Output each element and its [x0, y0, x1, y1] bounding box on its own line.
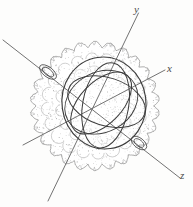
inner-stipple-dot	[126, 96, 127, 97]
inner-stipple-dot	[111, 84, 112, 85]
inner-stipple-dot	[108, 104, 109, 105]
inner-stipple-dot	[120, 109, 121, 110]
inner-stipple-dot	[67, 108, 68, 109]
stipple-dot	[113, 56, 114, 57]
stipple-dot	[45, 89, 46, 90]
stipple-dot	[153, 102, 154, 103]
inner-stipple-dot	[101, 73, 102, 74]
inner-stipple-dot	[109, 87, 110, 88]
stipple-dot	[101, 162, 102, 163]
stipple-dot	[97, 170, 98, 171]
stipple-dot	[44, 128, 45, 129]
inner-stipple-dot	[127, 77, 128, 78]
stipple-dot	[38, 88, 39, 89]
inner-stipple-dot	[120, 119, 121, 120]
inner-stipple-dot	[106, 134, 107, 135]
stipple-dot	[145, 130, 146, 131]
stipple-dot	[60, 78, 61, 79]
stipple-dot	[130, 60, 131, 61]
stipple-dot	[81, 143, 82, 144]
stipple-dot	[43, 143, 44, 144]
inner-stipple-dot	[89, 131, 90, 132]
inner-stipple-dot	[125, 115, 126, 116]
stipple-dot	[45, 92, 46, 93]
stipple-dot	[68, 50, 69, 51]
stipple-dot	[113, 150, 114, 151]
inner-stipple-dot	[87, 113, 88, 114]
stipple-dot	[56, 71, 57, 72]
stipple-dot	[57, 154, 58, 155]
stipple-dot	[62, 77, 63, 78]
inner-stipple-dot	[128, 134, 129, 135]
inner-stipple-dot	[90, 82, 91, 83]
stipple-dot	[111, 47, 112, 48]
inner-stipple-dot	[123, 96, 124, 97]
stipple-dot	[148, 124, 149, 125]
inner-stipple-dot	[94, 116, 95, 117]
inner-stipple-dot	[109, 95, 110, 96]
inner-stipple-dot	[81, 84, 82, 85]
inner-stipple-dot	[87, 131, 88, 132]
inner-stipple-dot	[87, 138, 88, 139]
stipple-dot	[55, 146, 56, 147]
inner-stipple-dot	[137, 113, 138, 114]
stipple-dot	[40, 123, 41, 124]
stipple-dot	[95, 161, 96, 162]
inner-stipple-dot	[73, 78, 74, 79]
stipple-dot	[64, 68, 65, 69]
inner-stipple-dot	[112, 100, 113, 101]
inner-stipple-dot	[132, 114, 133, 115]
inner-stipple-dot	[90, 69, 91, 70]
inner-stipple-dot	[90, 70, 91, 71]
stipple-dot	[70, 151, 71, 152]
stipple-dot	[157, 89, 158, 90]
stipple-dot	[150, 134, 151, 135]
inner-stipple-dot	[80, 110, 81, 111]
stipple-dot	[154, 108, 155, 109]
stipple-dot	[134, 150, 135, 151]
inner-stipple-dot	[74, 90, 75, 91]
inner-stipple-dot	[75, 134, 76, 135]
stipple-dot	[53, 61, 54, 62]
inner-stipple-dot	[108, 121, 109, 122]
inner-stipple-dot	[100, 102, 101, 103]
inner-stipple-dot	[106, 64, 107, 65]
inner-stipple-dot	[121, 82, 122, 83]
stipple-dot	[145, 135, 146, 136]
stipple-dot	[51, 119, 52, 120]
inner-stipple-dot	[111, 85, 112, 86]
stipple-dot	[36, 88, 37, 89]
stipple-dot	[40, 105, 41, 106]
stipple-dot	[59, 137, 60, 138]
stipple-dot	[88, 150, 89, 151]
stipple-dot	[133, 151, 134, 152]
inner-stipple-dot	[132, 133, 133, 134]
stipple-dot	[42, 100, 43, 101]
stipple-dot	[47, 109, 48, 110]
stipple-dot	[34, 96, 35, 97]
stipple-dot	[49, 109, 50, 110]
stipple-dot	[113, 160, 114, 161]
stipple-dot	[42, 90, 43, 91]
stipple-dot	[71, 145, 72, 146]
stipple-dot	[109, 159, 110, 160]
inner-stipple-dot	[134, 84, 135, 85]
stipple-dot	[71, 140, 72, 141]
inner-stipple-dot	[76, 107, 77, 108]
stipple-dot	[74, 155, 75, 156]
stipple-dot	[39, 85, 40, 86]
inner-stipple-dot	[95, 128, 96, 129]
inner-stipple-dot	[84, 127, 85, 128]
stipple-dot	[62, 138, 63, 139]
inner-stipple-dot	[143, 99, 144, 100]
inner-stipple-dot	[113, 108, 114, 109]
stipple-dot	[70, 160, 71, 161]
inner-stipple-dot	[111, 90, 112, 91]
stipple-dot	[67, 128, 68, 129]
stipple-dot	[39, 75, 40, 76]
inner-stipple-dot	[91, 130, 92, 131]
inner-stipple-dot	[102, 59, 103, 60]
inner-stipple-dot	[133, 128, 134, 129]
stipple-dot	[102, 158, 103, 159]
stipple-dot	[59, 146, 60, 147]
